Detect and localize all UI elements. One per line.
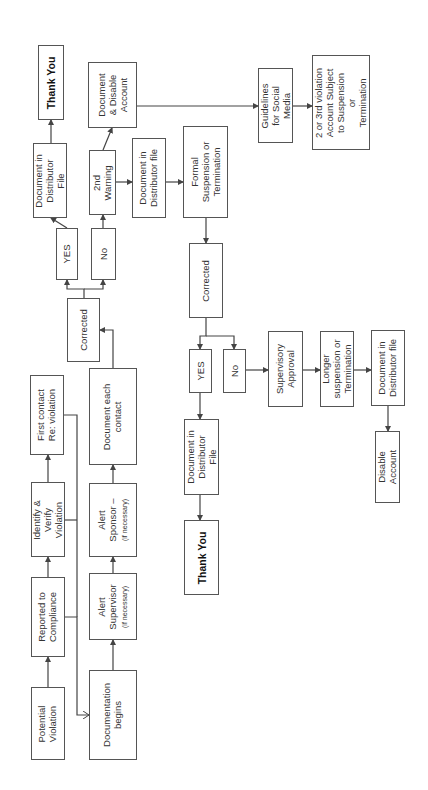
node-document-disable-account: Document & Disable Account: [88, 62, 137, 128]
node-text: Alert Sponsor –: [96, 498, 118, 541]
node-text: Documentation begins: [101, 683, 123, 747]
node-reported-to-compliance: Reported to Compliance: [31, 577, 65, 657]
node-no-1: No: [91, 228, 116, 280]
node-label: Identify & Verify Violation: [32, 500, 65, 540]
node-label: Potential Violation: [37, 705, 59, 742]
node-label: Thank You: [45, 56, 57, 109]
edge-yes-1-to-document-in-distributor-file-1: [51, 218, 67, 228]
node-text: Document each contact: [101, 383, 123, 450]
node-corrected-2: Corrected: [189, 243, 223, 318]
node-label: Document in Distributor File: [185, 430, 218, 483]
node-text: Identify & Verify Violation: [31, 500, 64, 540]
edge-reported-to-compliance-to-documentation-begins: [65, 617, 89, 715]
node-second-third-violation: 2 or 3rd violation Account Subject to Su…: [312, 55, 370, 150]
node-text: Corrected: [200, 260, 211, 302]
node-text: Document in Distributor file: [137, 149, 159, 207]
node-label: Alert Sponsor – (if necessary): [97, 498, 130, 541]
node-label: Reported to Compliance: [37, 592, 59, 642]
node-label: Thank You: [195, 531, 207, 584]
node-label: First contact Re: violation: [36, 389, 58, 441]
node-label: Alert Supervisor (if necessary): [97, 584, 130, 629]
node-yes-2: YES: [189, 349, 212, 393]
node-yes-1: YES: [56, 228, 78, 280]
node-text: YES: [61, 244, 72, 263]
node-text: Thank You: [45, 56, 57, 109]
node-text: First contact Re: violation: [35, 389, 57, 441]
node-label: Document in Distributor file: [377, 339, 399, 397]
node-label: Guidelines for Social Media: [259, 83, 292, 128]
node-label: Supervisory Approval: [275, 344, 297, 394]
node-label: No: [229, 365, 240, 377]
node-text: Potential Violation: [36, 705, 58, 742]
node-label: No: [98, 248, 109, 260]
node-text: Supervisory Approval: [274, 344, 296, 394]
node-note: (if necessary): [120, 585, 127, 627]
node-label: Documentation begins: [102, 683, 124, 747]
node-text: Alert Supervisor: [96, 584, 118, 629]
node-label: YES: [62, 244, 73, 263]
node-document-in-distributor-file-2: Document in Distributor file: [132, 138, 166, 218]
node-text: Document in Distributor File: [184, 430, 217, 483]
node-identify-verify-violation: Identify & Verify Violation: [31, 482, 65, 557]
edge-second-warning-to-document-disable-account: [103, 128, 112, 150]
node-thank-you-2: Thank You: [184, 520, 219, 595]
node-label: Document & Disable Account: [96, 73, 129, 116]
node-longer-suspension: Longer suspension or Termination: [320, 331, 354, 407]
node-thank-you-1: Thank You: [38, 45, 64, 120]
node-document-each-contact: Document each contact: [89, 368, 137, 465]
edge-corrected-2-to-no-2: [206, 336, 234, 349]
node-text: Disable Account: [376, 450, 398, 484]
node-text: Document & Disable Account: [95, 73, 128, 116]
node-second-warning: 2nd Warning: [89, 150, 116, 215]
edge-corrected-2-to-yes-2: [200, 318, 206, 349]
node-label: 2nd Warning: [92, 165, 114, 200]
node-label: Formal Suspension or Termination: [189, 142, 222, 203]
node-label: Disable Account: [377, 450, 399, 484]
node-text: No: [228, 365, 239, 377]
node-text: 2 or 3rd violation Account Subject to Su…: [313, 67, 368, 137]
node-text: Document in Distributor file: [376, 339, 398, 397]
node-text: YES: [194, 361, 205, 380]
node-document-in-distributor-file-3: Document in Distributor File: [184, 419, 219, 495]
node-text: Corrected: [77, 309, 88, 351]
node-formal-suspension: Formal Suspension or Termination: [183, 126, 228, 218]
node-text: Guidelines for Social Media: [258, 83, 291, 128]
node-label: Document each contact: [102, 383, 124, 450]
node-alert-sponsor: Alert Sponsor – (if necessary): [89, 483, 137, 557]
node-label: Longer suspension or Termination: [321, 339, 354, 398]
node-text: Formal Suspension or Termination: [188, 142, 221, 203]
node-corrected-1: Corrected: [67, 298, 100, 362]
edge-corrected-1-to-yes-1: [67, 280, 84, 298]
node-label: 2 or 3rd violation Account Subject to Su…: [314, 67, 369, 137]
node-label: Document in Distributor file: [138, 149, 160, 207]
node-text: Document in Distributor File: [33, 154, 66, 207]
node-text: Reported to Compliance: [36, 592, 58, 642]
node-alert-supervisor: Alert Supervisor (if necessary): [89, 573, 137, 640]
node-potential-violation: Potential Violation: [31, 687, 65, 760]
edge-corrected-1-to-no-1: [84, 280, 103, 289]
edge-document-each-contact-to-corrected-1: [100, 330, 113, 368]
node-text: Thank You: [195, 531, 207, 584]
node-documentation-begins: Documentation begins: [89, 670, 137, 760]
node-supervisory-approval: Supervisory Approval: [268, 331, 303, 407]
node-document-in-distributor-file-1: Document in Distributor File: [33, 143, 67, 218]
node-text: No: [97, 248, 108, 260]
node-first-contact: First contact Re: violation: [30, 375, 64, 455]
node-note: (if necessary): [120, 499, 127, 541]
node-disable-account: Disable Account: [375, 431, 400, 503]
node-no-2: No: [223, 349, 246, 393]
node-text: 2nd Warning: [91, 165, 113, 200]
node-guidelines-social-media: Guidelines for Social Media: [258, 68, 293, 143]
node-label: Corrected: [201, 260, 212, 302]
node-text: Longer suspension or Termination: [320, 339, 353, 398]
edge-first-contact-to-documentation-begins: [64, 415, 77, 617]
node-label: Corrected: [78, 309, 89, 351]
node-label: Document in Distributor File: [34, 154, 67, 207]
node-label: YES: [195, 361, 206, 380]
node-document-in-distributor-file-4: Document in Distributor file: [371, 330, 405, 406]
